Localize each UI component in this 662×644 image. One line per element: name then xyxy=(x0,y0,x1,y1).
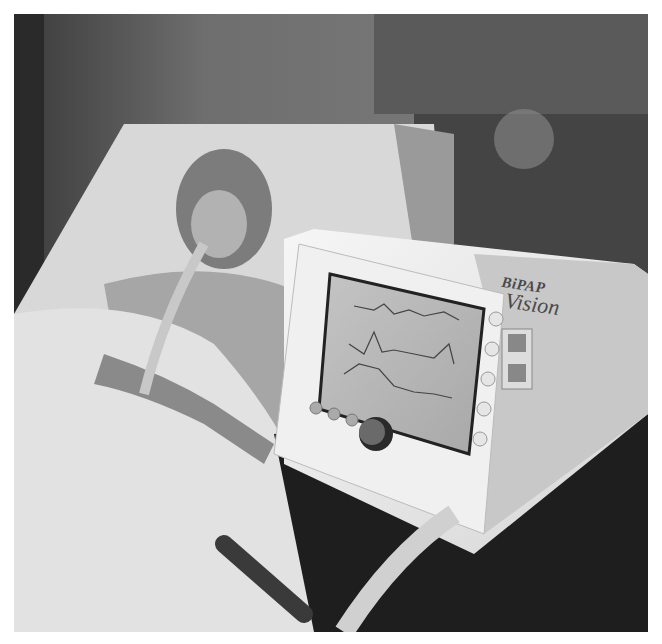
scene xyxy=(14,14,648,632)
brand-line-2: Vision xyxy=(504,290,561,317)
photo: BiPAP Vision xyxy=(14,14,648,632)
flowmeter xyxy=(494,109,554,169)
mode-button-1 xyxy=(508,334,526,352)
mode-button-2 xyxy=(508,364,526,382)
dark-corner xyxy=(14,14,44,314)
wall-panel xyxy=(374,14,648,114)
brand-label: BiPAP Vision xyxy=(498,276,563,317)
